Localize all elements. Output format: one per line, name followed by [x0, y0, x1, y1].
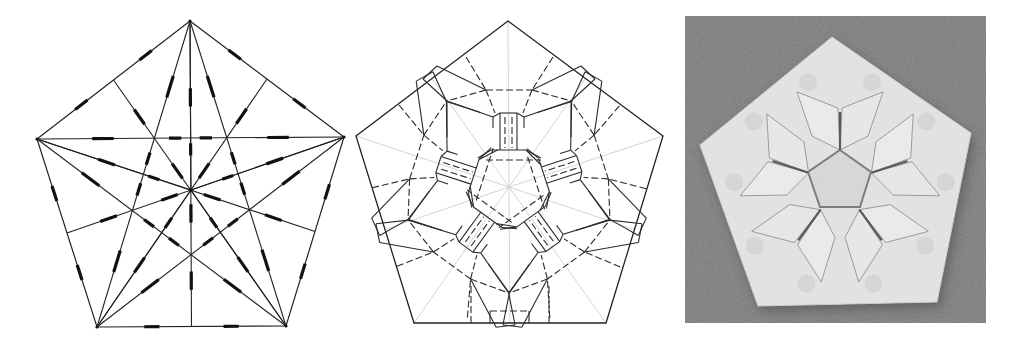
folded-model-photo	[685, 16, 986, 323]
figure	[0, 0, 1012, 346]
figure-canvas	[0, 0, 1012, 346]
crease-pattern-base	[35, 19, 345, 328]
crease-pattern-detailed	[356, 21, 663, 327]
